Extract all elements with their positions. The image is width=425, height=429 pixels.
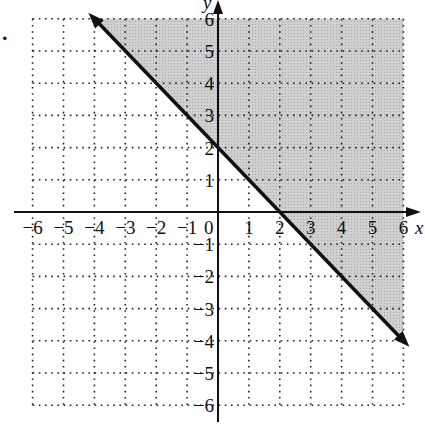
y-tick-label: 3	[205, 105, 215, 126]
x-tick-label: −4	[84, 217, 105, 238]
y-tick-label: −1	[194, 234, 214, 255]
y-tick-label: −5	[194, 363, 214, 384]
x-tick-label: 5	[368, 217, 378, 238]
x-tick-label: 2	[275, 217, 285, 238]
y-tick-label: 6	[205, 9, 215, 30]
y-tick-label: −6	[194, 395, 214, 416]
x-tick-label: −6	[22, 217, 42, 238]
x-tick-label: 6	[399, 217, 409, 238]
x-tick-label: 4	[337, 217, 347, 238]
x-tick-label: −5	[53, 217, 73, 238]
x-tick-label: 1	[244, 217, 254, 238]
x-tick-label: 3	[306, 217, 316, 238]
x-tick-label: −2	[146, 217, 166, 238]
inequality-graph: . x y −6−5−4−3−2−10123456 654321−1−2−3−4…	[0, 0, 425, 429]
y-tick-label: −4	[194, 331, 215, 352]
x-tick-label: −3	[115, 217, 135, 238]
y-tick-label: −3	[194, 299, 214, 320]
problem-marker: .	[2, 20, 8, 45]
y-tick-label: 1	[205, 170, 215, 191]
y-axis-arrow-icon	[213, 0, 223, 14]
y-tick-label: 4	[205, 73, 215, 94]
y-tick-label: 5	[205, 41, 215, 62]
x-axis-arrow-icon	[406, 207, 421, 217]
x-axis-label: x	[414, 217, 424, 238]
y-tick-label: −2	[194, 266, 214, 287]
